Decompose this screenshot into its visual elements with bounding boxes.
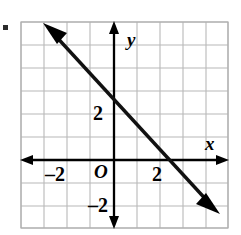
y-axis-bottom-arrowhead <box>109 216 119 229</box>
y-tick-label-positive-2: 2 <box>93 102 103 124</box>
horizontal-gridlines <box>21 22 228 228</box>
grid-border <box>21 22 228 228</box>
x-tick-label-negative-2: –2 <box>44 163 65 185</box>
line-upper-left-arrowhead <box>43 23 67 44</box>
problem-bullet-marker <box>3 25 8 30</box>
x-axis-right-arrowhead <box>216 155 229 165</box>
x-tick-label-positive-2: 2 <box>152 163 162 185</box>
x-axis-label: x <box>204 133 215 154</box>
vertical-gridlines <box>21 22 228 228</box>
coordinate-plane-figure: y x O –2 2 2 –2 <box>0 0 241 235</box>
y-axis-top-arrowhead <box>109 21 119 34</box>
line-lower-right-arrowhead <box>196 193 220 214</box>
origin-label: O <box>94 161 108 182</box>
y-axis-label: y <box>125 29 136 50</box>
graph-canvas: y x O –2 2 2 –2 <box>0 0 241 235</box>
plotted-line <box>43 23 220 214</box>
x-axis-left-arrowhead <box>20 155 33 165</box>
y-axis <box>109 21 119 229</box>
y-tick-label-negative-2: –2 <box>87 194 108 216</box>
